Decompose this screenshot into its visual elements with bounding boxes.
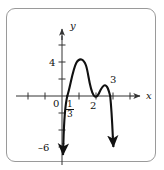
y-axis <box>59 29 66 165</box>
x-tick-label-one-third: 1 3 <box>66 100 74 120</box>
x-tick-label-3: 3 <box>110 75 116 85</box>
fraction-denominator: 3 <box>66 109 74 119</box>
origin-label: 0 <box>53 99 59 109</box>
graph-figure: y x 0 4 –6 1 3 2 3 <box>0 0 164 170</box>
x-axis <box>16 93 140 100</box>
y-axis-label: y <box>70 21 76 31</box>
graph-canvas <box>0 0 164 170</box>
y-tick-label-negative-6: –6 <box>38 143 49 153</box>
x-tick-label-2: 2 <box>90 101 96 111</box>
fraction-numerator: 1 <box>66 100 74 109</box>
x-axis-label: x <box>146 91 152 101</box>
y-tick-label-4: 4 <box>49 58 55 68</box>
